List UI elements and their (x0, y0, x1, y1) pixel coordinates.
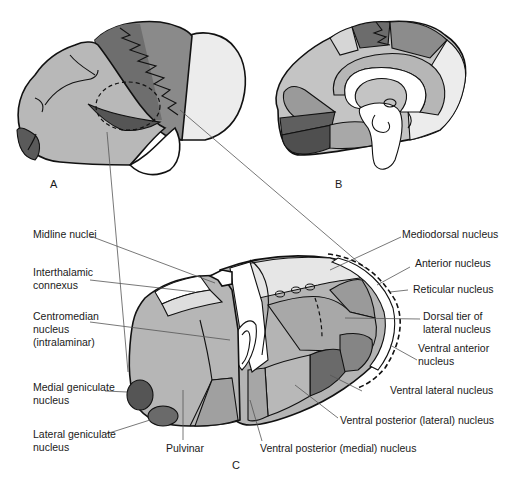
panel-label-a: A (50, 178, 58, 190)
label-pulvinar: Pulvinar (166, 442, 204, 454)
label-lateral-geniculate-2: nucleus (33, 441, 69, 453)
thalamus-view-c (127, 254, 400, 426)
label-lateral-geniculate-1: Lateral geniculate (33, 428, 116, 440)
label-dorsal-tier-2: lateral nucleus (423, 323, 491, 335)
label-interthalamic-connexus-2: connexus (33, 279, 78, 291)
label-ventral-lateral-nucleus: Ventral lateral nucleus (390, 384, 493, 396)
panel-label-c: C (232, 459, 240, 471)
label-medial-geniculate-2: nucleus (33, 394, 69, 406)
projection-line-left (107, 132, 128, 372)
label-interthalamic-connexus-1: Interthalamic (33, 266, 93, 278)
label-centromedian-1: Centromedian (33, 310, 99, 322)
label-dorsal-tier-1: Dorsal tier of (423, 310, 483, 322)
label-centromedian-3: (intralaminar) (33, 336, 95, 348)
label-ventral-anterior-1: Ventral anterior (418, 342, 490, 354)
brain-medial-view-b (276, 21, 466, 169)
label-vpl-nucleus: Ventral posterior (lateral) nucleus (340, 414, 494, 426)
label-anterior-nucleus: Anterior nucleus (415, 257, 491, 269)
label-medial-geniculate-1: Medial geniculate (33, 381, 115, 393)
label-mediodorsal-nucleus: Mediodorsal nucleus (402, 228, 498, 240)
panel-label-b: B (335, 178, 342, 190)
label-centromedian-2: nucleus (33, 323, 69, 335)
label-ventral-anterior-2: nucleus (418, 355, 454, 367)
label-vpm-nucleus: Ventral posterior (medial) nucleus (260, 442, 416, 454)
brain-lateral-view-a (17, 22, 245, 175)
thalamus-diagram: A B (0, 0, 511, 490)
label-reticular-nucleus: Reticular nucleus (413, 283, 494, 295)
label-midline-nuclei: Midline nuclei (33, 228, 97, 240)
